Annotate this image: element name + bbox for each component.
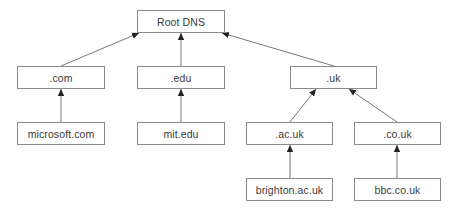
node-label: Root DNS [157, 16, 205, 28]
node-com: .com [17, 66, 105, 89]
node-mit-edu: mit.edu [137, 122, 225, 145]
edge-group [61, 33, 397, 178]
node-bbc-co-uk: bbc.co.uk [354, 178, 441, 201]
node-brighton-ac-uk: brighton.ac.uk [246, 178, 333, 201]
node-label: brighton.ac.uk [256, 184, 323, 196]
node-label: .uk [326, 72, 340, 84]
node-label: .co.uk [383, 128, 412, 140]
edge-arrow-couk-to-uk [349, 89, 397, 122]
node-label: bbc.co.uk [375, 184, 421, 196]
edge-arrow-com-to-root [61, 33, 139, 66]
node-microsoft-com: microsoft.com [17, 122, 105, 145]
edge-arrow-acuk-to-uk [290, 89, 316, 122]
node-label: .com [49, 72, 72, 84]
node-root-dns: Root DNS [137, 10, 225, 33]
node-edu: .edu [137, 66, 225, 89]
node-uk: .uk [290, 66, 377, 89]
node-label: .edu [171, 72, 192, 84]
node-co-uk: .co.uk [354, 122, 441, 145]
edge-arrow-uk-to-root [222, 33, 334, 66]
node-label: microsoft.com [28, 128, 95, 140]
node-ac-uk: .ac.uk [246, 122, 333, 145]
node-label: mit.edu [163, 128, 198, 140]
node-label: .ac.uk [275, 128, 304, 140]
